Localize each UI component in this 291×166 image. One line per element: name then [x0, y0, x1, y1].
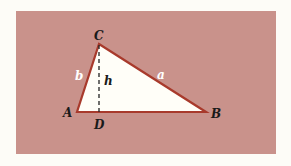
altitude-label-h: h: [104, 74, 113, 88]
triangle-abc: [77, 44, 206, 112]
triangle-diagram: C A D B b h a: [0, 0, 291, 166]
side-label-b: b: [75, 69, 83, 83]
vertex-label-b: B: [210, 107, 221, 121]
vertex-label-d: D: [93, 118, 105, 132]
vertex-label-c: C: [94, 29, 104, 43]
vertex-label-a: A: [62, 106, 72, 120]
side-label-a: a: [157, 68, 165, 82]
